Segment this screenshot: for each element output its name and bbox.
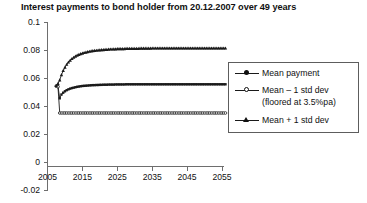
x-tick-label: 2035 — [143, 172, 162, 182]
x-tick-label: 2005 — [38, 172, 57, 182]
y-axis-group: 0.10.080.060.040.020-0.02 — [20, 17, 47, 195]
data-series — [55, 85, 227, 115]
data-point-marker — [58, 78, 61, 81]
data-point-marker — [60, 73, 63, 76]
y-tick-label: -0.02 — [20, 185, 40, 195]
x-tick-label: 2015 — [73, 172, 92, 182]
data-point-marker — [224, 112, 227, 115]
y-tick-label: 0.06 — [23, 73, 40, 83]
x-tick-label: 2055 — [212, 172, 231, 182]
x-tick-marks — [48, 167, 223, 171]
y-tick-label: 0.02 — [23, 129, 40, 139]
legend-item-mean-payment: Mean payment — [235, 67, 319, 80]
y-tick-label: 0.1 — [28, 17, 40, 27]
chart-legend: Mean payment Mean – 1 std dev (floored a… — [228, 62, 359, 133]
x-tick-label: 2025 — [108, 172, 127, 182]
data-series — [55, 83, 227, 99]
x-axis-group: 200520152025203520452055 — [38, 167, 232, 183]
x-tick-label: 2045 — [178, 172, 197, 182]
legend-item-mean-plus-std: Mean + 1 std dev — [235, 114, 329, 127]
legend-label: Mean + 1 std dev — [262, 115, 329, 126]
x-tick-labels: 200520152025203520452055 — [38, 172, 232, 182]
legend-marker-triangle-icon — [235, 115, 259, 126]
data-point-marker — [224, 83, 226, 85]
y-tick-label: 0.04 — [23, 101, 40, 111]
series-group — [55, 46, 228, 114]
series-line — [56, 86, 225, 113]
y-tick-labels: 0.10.080.060.040.020-0.02 — [20, 17, 40, 195]
y-tick-label: 0 — [35, 157, 40, 167]
chart-container: Interest payments to bond holder from 20… — [0, 0, 367, 203]
legend-marker-filled-dot-icon — [235, 68, 259, 79]
y-tick-marks — [44, 22, 48, 190]
legend-item-mean-minus-std: Mean – 1 std dev — [235, 84, 329, 97]
legend-label: Mean – 1 std dev — [262, 85, 329, 96]
legend-marker-open-dot-icon — [235, 85, 259, 96]
data-series — [55, 46, 228, 87]
y-tick-label: 0.08 — [23, 45, 40, 55]
legend-label-sub: (floored at 3.5%pa) — [262, 97, 336, 107]
legend-label: Mean payment — [262, 68, 319, 79]
